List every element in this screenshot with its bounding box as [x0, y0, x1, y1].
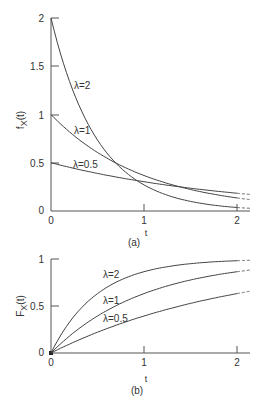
- curve-b-lambda-0.5-dashed: [237, 291, 251, 294]
- figure: 2 1.5 1 0.5 0 0 1 2 fX(t) t (a) λ=2 λ=1 …: [0, 0, 264, 412]
- y-tick-label-b: 1: [38, 254, 44, 265]
- curve-a-lambda-1-dashed: [237, 198, 251, 200]
- curve-b-lambda-0.5: [51, 294, 237, 353]
- y-tick-label-a: 1: [38, 110, 44, 121]
- y-axis-label-b: FX(t): [15, 295, 29, 317]
- curve-a-lambda-2: [51, 18, 237, 208]
- curve-b-lambda-1: [51, 272, 237, 353]
- y-tick-label-a: 0.5: [30, 158, 44, 169]
- curve-b-lambda-2: [51, 261, 237, 353]
- y-axis-label-a: fX(t): [15, 111, 29, 129]
- y-tick-label-b: 0: [38, 347, 44, 358]
- x-tick-label-a: 0: [48, 215, 54, 226]
- panel-label-b: (b): [131, 385, 143, 396]
- x-tick-label-b: 2: [234, 357, 240, 368]
- y-tick-label-a: 2: [38, 13, 44, 24]
- x-tick-label-b: 0: [48, 357, 54, 368]
- chart-b: 1 0.5 0 0 1 2 FX(t) t (b) λ=2 λ=1 λ=0.5: [15, 254, 251, 396]
- y-tick-label-a: 1.5: [30, 61, 44, 72]
- x-tick-label-b: 1: [141, 357, 147, 368]
- curve-a-lambda-2-dashed: [237, 208, 251, 209]
- curve-label-a-lambda-2: λ=2: [74, 80, 91, 91]
- curve-label-b-lambda-0.5: λ=0.5: [103, 313, 128, 324]
- panel-label-a: (a): [128, 237, 140, 248]
- y-tick-label-a: 0: [38, 205, 44, 216]
- chart-a: 2 1.5 1 0.5 0 0 1 2 fX(t) t (a) λ=2 λ=1 …: [15, 13, 251, 248]
- x-tick-label-a: 2: [234, 215, 240, 226]
- curve-label-a-lambda-1: λ=1: [74, 125, 91, 136]
- curve-label-a-lambda-0.5: λ=0.5: [73, 159, 98, 170]
- x-tick-label-a: 1: [141, 215, 147, 226]
- curve-label-b-lambda-2: λ=2: [103, 269, 120, 280]
- curve-a-lambda-0.5-dashed: [237, 193, 251, 194]
- curve-label-b-lambda-1: λ=1: [103, 295, 120, 306]
- y-tick-label-b: 0.5: [30, 301, 44, 312]
- curve-b-lambda-1-dashed: [237, 270, 251, 272]
- x-axis-label-b: t: [145, 374, 148, 384]
- x-axis-label-a: t: [145, 228, 148, 238]
